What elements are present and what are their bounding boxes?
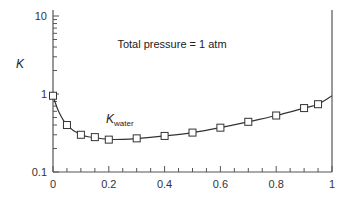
pressure-annotation: Total pressure = 1 atm [117,38,226,50]
square-marker [105,136,112,143]
x-tick-label: 0 [50,178,56,190]
x-tick-label: 1 [329,178,335,190]
x-tick-label: 0.2 [101,178,116,190]
series-label: Kwater [106,112,134,128]
square-marker [77,131,84,138]
y-tick-label: 10 [35,10,47,22]
square-marker [217,124,224,131]
square-marker [301,105,308,112]
tick-labels: 00.20.40.60.810.1110 [32,10,335,190]
square-marker [161,132,168,139]
x-tick-label: 0.8 [269,178,284,190]
chart: 00.20.40.60.810.1110 K Total pressure = … [0,0,346,210]
square-marker [133,135,140,142]
y-tick-label: 1 [41,88,47,100]
square-marker [273,112,280,119]
chart-svg: 00.20.40.60.810.1110 K Total pressure = … [0,0,346,210]
square-marker [245,118,252,125]
data-markers [50,92,322,143]
square-marker [63,122,70,129]
axes [53,10,332,172]
y-tick-label: 0.1 [32,166,47,178]
series-label-sub: water [113,119,134,128]
square-marker [50,92,57,99]
square-marker [315,101,322,108]
x-tick-label: 0.4 [157,178,172,190]
y-axis-label: K [16,57,25,71]
square-marker [189,129,196,136]
x-tick-label: 0.6 [213,178,228,190]
square-marker [91,134,98,141]
